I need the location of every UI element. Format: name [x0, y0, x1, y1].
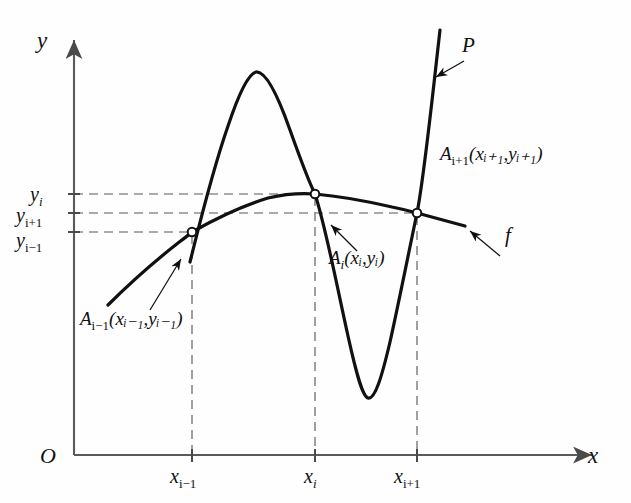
y-axis-label: y	[35, 28, 48, 53]
point-label-A-i-plus-1: Ai+1(xᵢ₊₁,yᵢ₊₁)	[438, 143, 543, 168]
curve-label-f: f	[505, 223, 514, 247]
curve-f-path[interactable]	[108, 194, 465, 305]
node-A-i-minus-1[interactable]	[188, 228, 197, 237]
curve-label-P: P	[461, 33, 475, 57]
y-tick-label-y-i-minus-1: yi−1	[14, 229, 42, 255]
x-axis-label: x	[587, 443, 599, 468]
math-diagram: y x O yi yi+1 yi−1 xi−1 xi xi+1 P f Ai+1…	[0, 0, 631, 503]
node-A-i-plus-1[interactable]	[413, 209, 422, 218]
x-tick-label-x-i-plus-1: xi+1	[393, 465, 420, 491]
annotation-arrows	[150, 61, 500, 310]
arrow-to-node-A-i-minus-1	[150, 259, 181, 310]
arrow-to-curve-P	[436, 61, 464, 77]
x-tick-label-x-i: xi	[303, 465, 317, 491]
figure-canvas: y x O yi yi+1 yi−1 xi−1 xi xi+1 P f Ai+1…	[0, 0, 631, 503]
arrow-to-curve-f	[470, 231, 500, 256]
origin-label: O	[40, 443, 56, 468]
y-tick-label-y-i: yi	[28, 183, 43, 209]
x-tick-label-x-i-minus-1: xi−1	[169, 465, 196, 491]
point-label-A-i-minus-1: Ai−1(xᵢ₋₁,yᵢ₋₁)	[78, 308, 183, 333]
point-label-A-i: Ai(xᵢ,yᵢ)	[327, 247, 385, 272]
node-A-i[interactable]	[311, 190, 320, 199]
